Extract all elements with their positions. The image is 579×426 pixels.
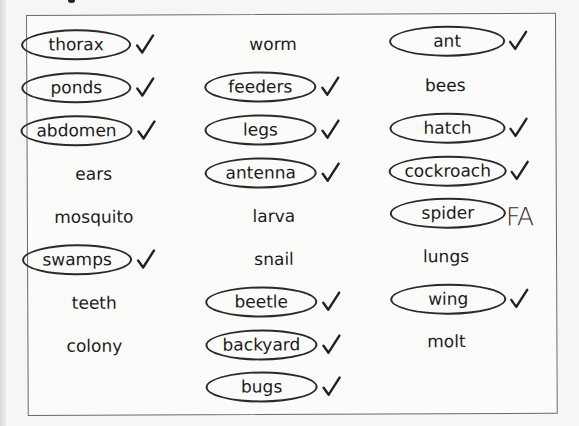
word-mosquito: mosquito [54, 202, 133, 232]
word-ponds: ponds [21, 72, 131, 103]
word-ears: ears [75, 159, 112, 189]
check-mark-icon [321, 291, 341, 313]
ink-dot [68, 0, 75, 3]
scan-edge [0, 0, 6, 426]
check-mark-icon [320, 76, 340, 98]
check-mark-icon [136, 119, 156, 141]
word-thorax: thorax [21, 29, 131, 60]
worksheet-page: thorax ponds abdomen ears mosquito swamp… [0, 0, 579, 426]
check-mark-icon [322, 376, 342, 398]
check-mark-icon [135, 76, 155, 98]
word-colony: colony [67, 331, 123, 361]
fa-annotation: FA [506, 202, 533, 231]
check-mark-icon [321, 334, 341, 356]
word-bugs: bugs [206, 371, 318, 402]
word-box: thorax ponds abdomen ears mosquito swamp… [26, 13, 558, 416]
word-ant: ant [389, 25, 505, 57]
word-teeth: teeth [72, 288, 117, 318]
word-hatch: hatch [389, 112, 505, 144]
word-beetle: beetle [205, 286, 317, 317]
word-abdomen: abdomen [20, 115, 132, 146]
word-spider: spider [390, 197, 506, 229]
check-mark-icon [508, 117, 528, 139]
check-mark-icon [135, 33, 155, 55]
word-antenna: antenna [205, 157, 317, 188]
word-swamps: swamps [22, 244, 132, 275]
check-mark-icon [509, 288, 529, 310]
word-legs: legs [204, 114, 316, 145]
word-backyard: backyard [205, 329, 317, 360]
word-lungs: lungs [423, 241, 469, 271]
word-feeders: feeders [204, 71, 316, 102]
check-mark-icon [136, 248, 156, 270]
word-cockroach: cockroach [389, 155, 507, 187]
word-wing: wing [390, 283, 506, 315]
check-mark-icon [320, 119, 340, 141]
word-larva: larva [253, 201, 296, 231]
check-mark-icon [510, 160, 530, 182]
check-mark-icon [508, 30, 528, 52]
word-worm: worm [249, 29, 297, 59]
word-molt: molt [427, 326, 465, 356]
word-bees: bees [425, 70, 466, 100]
word-snail: snail [254, 244, 294, 274]
check-mark-icon [321, 162, 341, 184]
